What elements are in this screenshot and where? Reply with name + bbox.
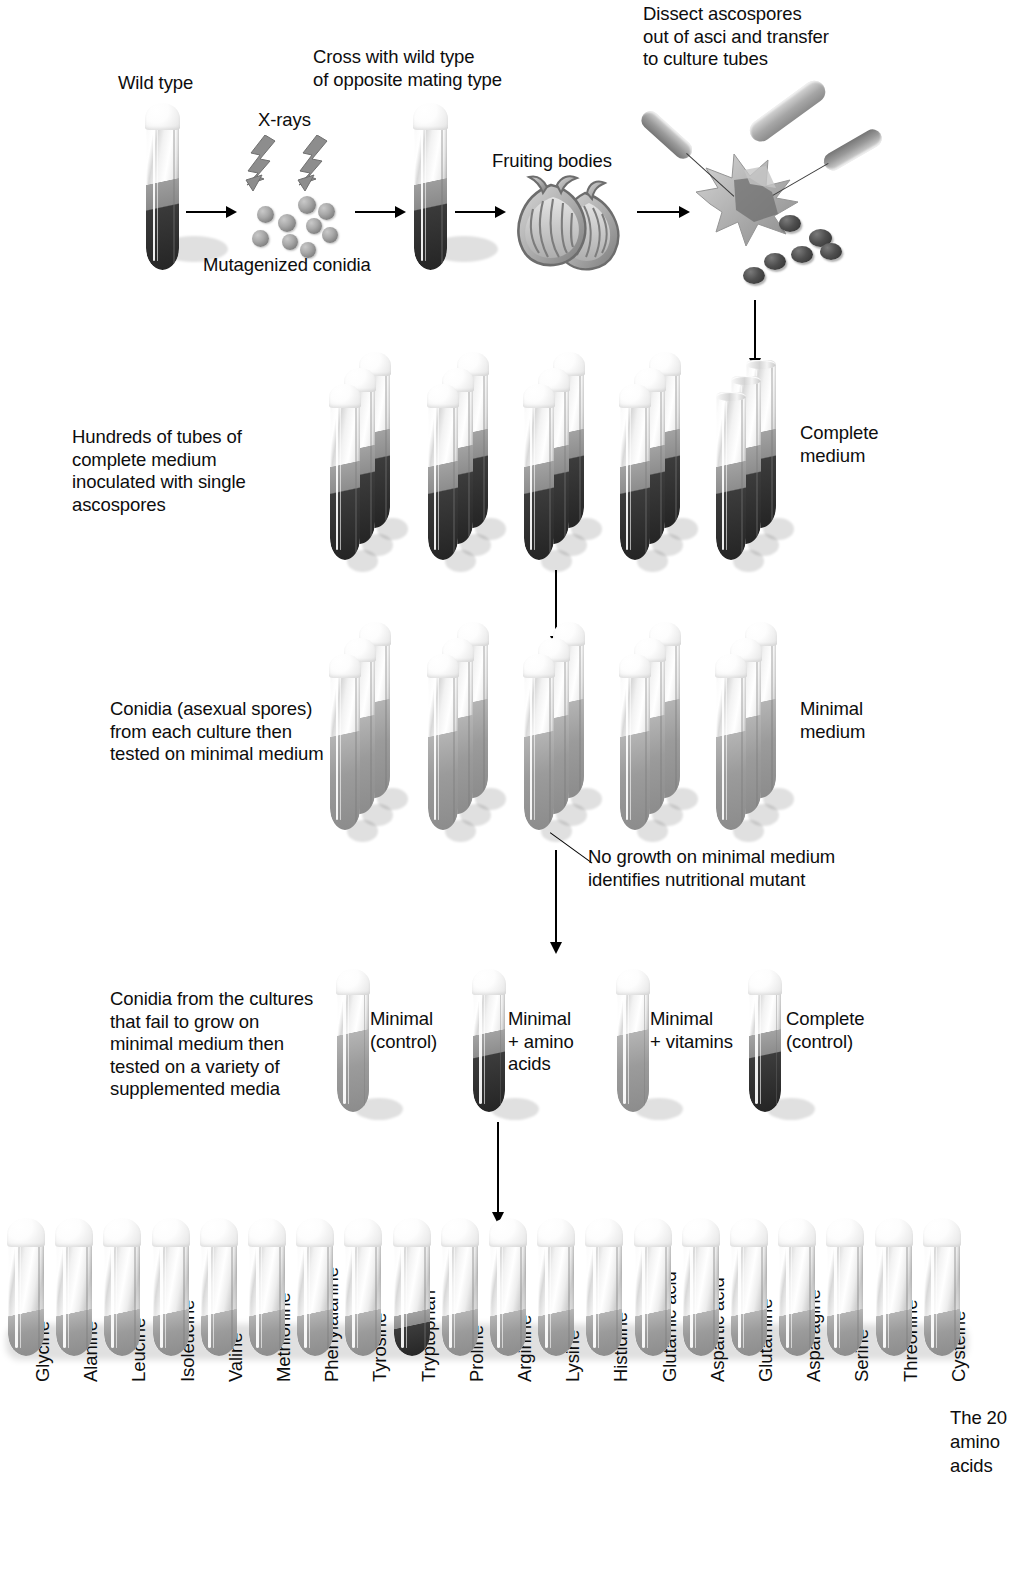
tube-glass: [827, 1228, 863, 1356]
cotton-plug: [152, 1218, 190, 1247]
tube-glass: [297, 1228, 333, 1356]
cotton-plug: [489, 1218, 527, 1247]
tube-glass: [924, 1228, 960, 1356]
glass-shade: [713, 1233, 715, 1351]
glass-highlight: [695, 1236, 696, 1349]
glass-highlight: [722, 672, 724, 820]
glass-shade: [385, 637, 387, 792]
amino-acid-tube: [249, 1228, 285, 1356]
glass-shade: [675, 637, 677, 792]
arrow-supplemented-to-amino-acids: [491, 1122, 505, 1228]
complete-medium-tube: [524, 392, 554, 560]
tube-glass: [779, 1228, 815, 1356]
glass-highlight-2: [425, 121, 426, 260]
cross-tube: [414, 112, 447, 270]
glass-shade: [568, 1233, 570, 1351]
amino-acid-tube: [153, 1228, 189, 1356]
glass-highlight: [336, 402, 338, 550]
tube-glass: [620, 392, 650, 560]
tube-glass: [524, 662, 554, 830]
supplemented-media-tube: [749, 978, 781, 1112]
glass-highlight: [336, 672, 338, 820]
amino-acid-tube: [442, 1228, 478, 1356]
glass-highlight: [760, 986, 761, 1104]
glass-highlight: [647, 1236, 648, 1349]
arrow-minimal-to-supplemented: [549, 850, 563, 958]
glass-shade: [761, 1233, 763, 1351]
dissect-label: Dissect ascospores out of asci and trans…: [643, 3, 829, 71]
glass-highlight: [534, 672, 535, 820]
conidium: [322, 227, 338, 243]
glass-shade: [86, 1233, 88, 1351]
glass-highlight: [755, 986, 757, 1104]
glass-shade: [645, 399, 647, 554]
glass-shade: [468, 653, 470, 808]
glass-shade: [809, 1233, 811, 1351]
arrow-to-cross-tube: [355, 206, 407, 218]
amino-acid-tube: [297, 1228, 333, 1356]
minimal-medium-label: Minimal medium: [800, 698, 865, 743]
fruiting-bodies-label: Fruiting bodies: [492, 150, 612, 173]
tube-glass: [683, 1228, 719, 1356]
tube-glass: [104, 1228, 140, 1356]
dissecting-needle-right-body: [746, 75, 832, 146]
glass-highlight: [726, 402, 727, 550]
glass-shade: [660, 653, 662, 808]
glass-shade: [741, 669, 743, 824]
glass-shade: [370, 383, 372, 538]
conidium: [252, 230, 269, 247]
glass-highlight: [550, 1236, 551, 1349]
tube-glass: [731, 1228, 767, 1356]
supplemented-media-tube: [337, 978, 369, 1112]
glass-highlight: [438, 402, 439, 550]
glass-shade: [616, 1233, 618, 1351]
arrow-to-conidia: [186, 206, 238, 218]
glass-shade: [660, 383, 662, 538]
tube-glass: [428, 662, 458, 830]
experiment-figure: Wild type X-rays Mutagenized conidia Cro…: [0, 0, 1032, 1588]
cotton-plug: [923, 1218, 961, 1247]
glass-shade: [134, 1233, 136, 1351]
supplemented-media-tube: [617, 978, 649, 1112]
amino-acid-tube: [56, 1228, 92, 1356]
wild-type-label: Wild type: [118, 72, 193, 95]
glass-highlight: [534, 402, 535, 550]
amino-acid-tube: [586, 1228, 622, 1356]
cotton-plug: [585, 1218, 623, 1247]
amino-acid-tube: [876, 1228, 912, 1356]
glass-shade: [483, 637, 485, 792]
complete-medium-tube: [428, 392, 458, 560]
tube-glass: [876, 1228, 912, 1356]
conidium: [298, 196, 316, 214]
glass-highlight: [309, 1236, 310, 1349]
glass-highlight: [743, 1236, 744, 1349]
amino-acid-tube: [490, 1228, 526, 1356]
glass-highlight: [791, 1236, 792, 1349]
glass-highlight: [931, 1236, 934, 1349]
arrow-to-fruiting-bodies: [455, 206, 507, 218]
amino-acid-tube: [635, 1228, 671, 1356]
wild-type-tube: [146, 112, 179, 270]
glass-shade: [231, 1233, 233, 1351]
glass-highlight: [883, 1236, 886, 1349]
tube-glass: [330, 662, 360, 830]
cotton-plug: [344, 1218, 382, 1247]
amino-acid-tube: [104, 1228, 140, 1356]
glass-highlight: [421, 121, 423, 260]
glass-highlight: [738, 1236, 741, 1349]
complete-medium-tube: [330, 392, 360, 560]
cotton-plug: [537, 1218, 575, 1247]
glass-highlight: [454, 1236, 455, 1349]
cotton-plug: [441, 1218, 479, 1247]
glass-highlight: [116, 1236, 117, 1349]
glass-shade: [370, 653, 372, 808]
glass-highlight: [545, 1236, 548, 1349]
glass-highlight: [839, 1236, 840, 1349]
glass-shade: [472, 1233, 474, 1351]
conidium: [318, 203, 335, 220]
cotton-plug: [103, 1218, 141, 1247]
glass-highlight: [348, 986, 349, 1104]
tube-glass: [442, 1228, 478, 1356]
glass-highlight: [256, 1236, 259, 1349]
ascospore: [820, 243, 842, 260]
